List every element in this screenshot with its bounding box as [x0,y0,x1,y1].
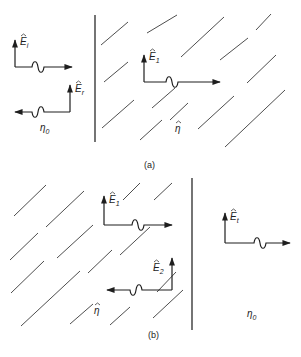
diagram-canvas: EiErE1η0η(a) E1E2Etηη0(b) [0,0,301,357]
panel-caption: (b) [148,330,159,340]
hatch-line [157,272,176,292]
field-vector-E2: E2 [107,258,172,295]
vector-label-Et: Et [230,211,240,224]
hatch-line [102,100,134,128]
free-space-impedance-label-eta0: η0 [247,308,257,321]
hatch-line [11,261,44,293]
panel-a-reflection-from-medium: EiErE1η0η(a) [15,14,285,170]
hatch-line [57,225,93,258]
field-vector-E1: E1 [104,192,172,230]
free-space-impedance-label-eta0: η0 [40,122,50,135]
medium-impedance-label-eta-hat: η [175,123,181,134]
hatch-line [46,191,84,227]
hatch-line [14,185,46,216]
medium-impedance-label-eta-hat: η [94,305,100,316]
hatch-line [147,15,177,33]
vector-label-E2: E2 [153,262,164,275]
panel-b-transmission-to-free-space: E1E2Etηη0(b) [10,178,290,340]
vector-label-Ei: Ei [20,36,29,49]
hatch-line [247,55,276,83]
field-vector-Et: Et [225,209,290,248]
hatch-line [170,103,188,120]
propagation-arrow-icon [104,220,172,231]
field-vector-E1: E1 [144,49,220,87]
wave-reflection-diagram: EiErE1η0η(a) E1E2Etηη0(b) [0,0,301,357]
hatch-line [256,14,271,30]
hatch-line [220,38,248,60]
hatch-line [104,62,128,82]
field-vector-Ei: Ei [15,34,72,72]
hatch-line [140,120,162,140]
hatch-line [153,290,183,318]
hatch-line [70,304,93,324]
hatch-line [10,233,38,260]
propagation-arrow-icon [15,62,72,73]
hatch-line [120,227,150,255]
hatch-line [110,307,130,325]
hatch-line [154,183,172,200]
hatch-line [152,88,175,108]
hatch-line [198,96,234,129]
vector-label-Er: Er [75,83,85,96]
hatch-line [181,17,224,57]
hatch-line [21,271,80,326]
hatch-line [123,183,140,200]
hatch-line [88,250,112,273]
vector-label-E1: E1 [109,194,120,207]
propagation-arrow-icon [225,238,290,249]
vector-label-E1: E1 [149,51,160,64]
hatch-line [101,22,128,45]
panel-caption: (a) [144,160,155,170]
field-vector-Er: Er [15,81,85,117]
propagation-arrow-icon [144,77,220,88]
medium-hatching [101,14,285,147]
propagation-arrow-icon [15,107,70,118]
hatch-line [225,90,285,147]
